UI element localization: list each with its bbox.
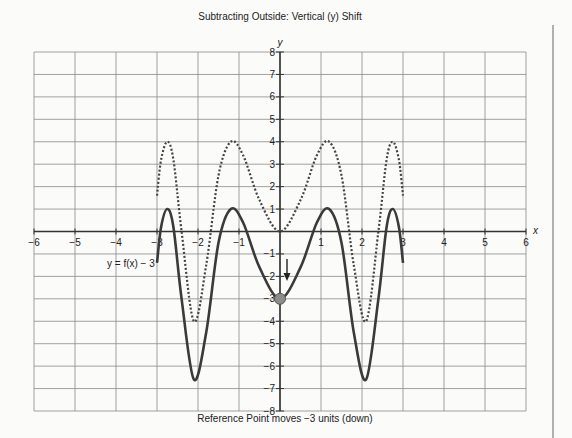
curve-label: y = f(x) − 3 [107,258,155,269]
axes [34,52,526,411]
svg-text:−2: −2 [192,237,204,248]
svg-text:−1: −1 [233,237,245,248]
svg-text:1: 1 [269,204,275,215]
svg-text:7: 7 [269,69,275,80]
svg-text:−5: −5 [69,237,81,248]
svg-text:1: 1 [318,237,324,248]
svg-text:6: 6 [523,237,529,248]
svg-text:−5: −5 [264,338,276,349]
svg-text:−7: −7 [264,383,276,394]
chart-caption: Reference Point moves −3 units (down) [197,413,372,424]
svg-text:6: 6 [269,91,275,102]
svg-text:4: 4 [269,136,275,147]
down-arrow-icon [284,259,291,281]
svg-text:5: 5 [269,114,275,125]
chart-title: Subtracting Outside: Vertical (y) Shift [198,11,362,22]
reference-point [275,293,286,304]
svg-text:−6: −6 [28,237,40,248]
svg-text:−4: −4 [264,316,276,327]
svg-text:4: 4 [441,237,447,248]
svg-text:3: 3 [269,159,275,170]
svg-text:2: 2 [359,237,365,248]
svg-text:−4: −4 [110,237,122,248]
svg-text:−6: −6 [264,361,276,372]
x-axis-label: x [532,225,539,236]
svg-text:8: 8 [269,47,275,58]
svg-text:−1: −1 [264,248,276,259]
chart-canvas: Subtracting Outside: Vertical (y) Shift … [0,0,572,438]
svg-text:2: 2 [269,181,275,192]
svg-text:5: 5 [482,237,488,248]
svg-text:−3: −3 [151,237,163,248]
y-axis-label: y [277,37,284,48]
